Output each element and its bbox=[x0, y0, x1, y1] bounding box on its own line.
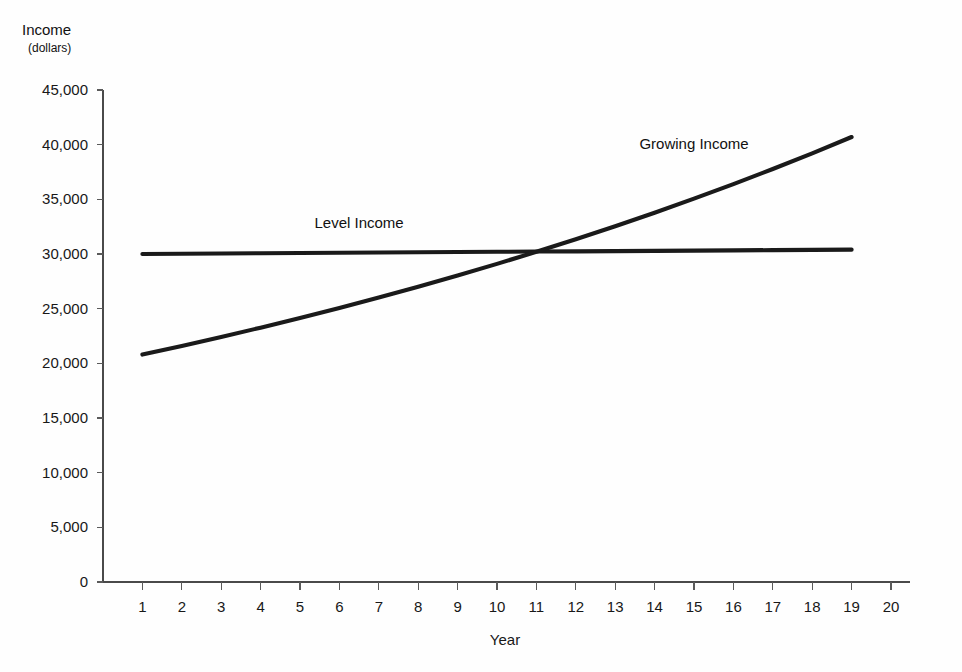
x-tick-label: 6 bbox=[335, 598, 343, 615]
x-tick-label: 14 bbox=[646, 598, 663, 615]
x-tick-label: 17 bbox=[764, 598, 781, 615]
x-tick-label: 9 bbox=[453, 598, 461, 615]
x-tick-label: 5 bbox=[296, 598, 304, 615]
y-tick-label: 0 bbox=[80, 573, 88, 590]
chart-subtitle: (dollars) bbox=[28, 41, 71, 55]
x-tick-label: 18 bbox=[804, 598, 821, 615]
y-tick-label: 25,000 bbox=[42, 300, 88, 317]
series-label-level-income: Level Income bbox=[314, 214, 403, 231]
x-tick-label: 1 bbox=[138, 598, 146, 615]
x-tick-label: 13 bbox=[607, 598, 624, 615]
x-tick-label: 4 bbox=[256, 598, 264, 615]
x-tick-label: 20 bbox=[883, 598, 900, 615]
y-tick-label: 40,000 bbox=[42, 136, 88, 153]
y-tick-label: 15,000 bbox=[42, 409, 88, 426]
y-tick-label: 20,000 bbox=[42, 354, 88, 371]
y-tick-label: 45,000 bbox=[42, 81, 88, 98]
x-tick-label: 19 bbox=[843, 598, 860, 615]
x-tick-label: 16 bbox=[725, 598, 742, 615]
x-tick-label: 10 bbox=[489, 598, 506, 615]
y-tick-label: 10,000 bbox=[42, 464, 88, 481]
x-axis-title: Year bbox=[490, 631, 520, 648]
series-label-growing-income: Growing Income bbox=[639, 135, 748, 152]
x-tick-label: 3 bbox=[217, 598, 225, 615]
x-tick-label: 2 bbox=[178, 598, 186, 615]
y-tick-label: 5,000 bbox=[50, 518, 88, 535]
x-tick-label: 8 bbox=[414, 598, 422, 615]
y-tick-label: 30,000 bbox=[42, 245, 88, 262]
x-tick-label: 11 bbox=[529, 598, 545, 615]
x-tick-label: 12 bbox=[567, 598, 584, 615]
chart-title: Income bbox=[22, 21, 71, 38]
chart-canvas: Income (dollars) 05,00010,00015,00020,00… bbox=[0, 0, 962, 672]
income-line-chart: Income (dollars) 05,00010,00015,00020,00… bbox=[0, 0, 962, 672]
y-tick-label: 35,000 bbox=[42, 190, 88, 207]
x-tick-label: 7 bbox=[375, 598, 383, 615]
x-tick-label: 15 bbox=[686, 598, 703, 615]
chart-background bbox=[0, 0, 962, 672]
